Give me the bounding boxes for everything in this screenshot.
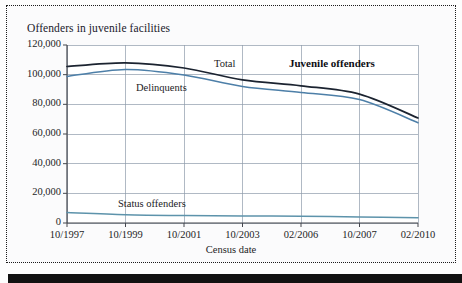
x-tick-label: 10/2003	[214, 229, 272, 240]
x-tick-label: 02/2010	[389, 229, 447, 240]
x-tick-label: 10/1997	[38, 229, 96, 240]
annotation-juvenile-offenders: Juvenile offenders	[289, 57, 375, 69]
line-chart-svg	[0, 0, 462, 283]
y-tick-label: 80,000	[15, 97, 61, 108]
x-axis-title: Census date	[0, 244, 462, 255]
y-tick-label: 60,000	[15, 127, 61, 138]
x-tick-label: 10/2007	[331, 229, 389, 240]
x-tick-label: 10/1999	[97, 229, 155, 240]
plot-area	[0, 0, 462, 283]
y-tick-label: 40,000	[15, 157, 61, 168]
y-tick-label: 120,000	[15, 38, 61, 49]
y-tick-label: 0	[15, 216, 61, 227]
chart-figure: Offenders in juvenile facilities Juvenil…	[0, 0, 462, 283]
x-tick-label: 10/2001	[155, 229, 213, 240]
y-tick-label: 100,000	[15, 68, 61, 79]
x-tick-label: 02/2006	[272, 229, 330, 240]
y-tick-label: 20,000	[15, 186, 61, 197]
series-label-total: Total	[214, 58, 235, 69]
bottom-black-bar	[8, 274, 462, 283]
series-label-status: Status offenders	[118, 198, 186, 209]
series-label-delinquents: Delinquents	[136, 82, 187, 93]
